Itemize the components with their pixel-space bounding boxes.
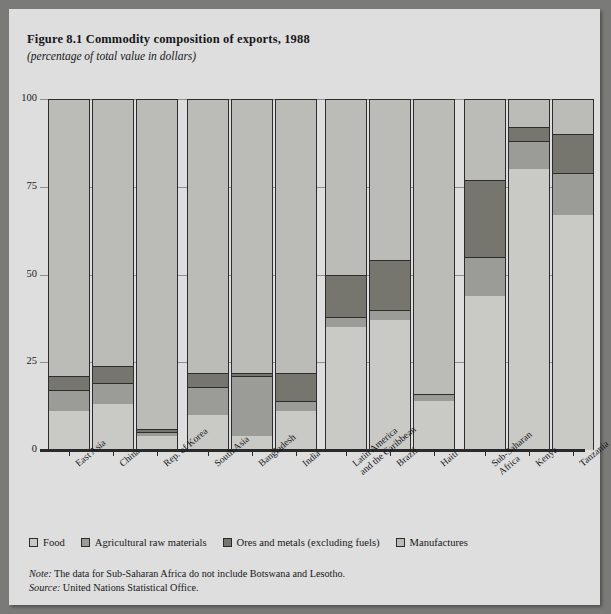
page-title: Figure 8.1 Commodity composition of expo… <box>27 32 310 47</box>
legend-swatch-icon <box>223 538 232 547</box>
y-tick-label-75: 75 <box>13 180 37 191</box>
legend-label: Manufactures <box>410 537 468 548</box>
segment-ores-and-metals-excluding-fuels- <box>509 127 549 141</box>
x-tick <box>208 452 209 456</box>
bar-latin-america-and-the-caribbean[interactable] <box>325 99 367 450</box>
segment-manufactures <box>509 99 549 127</box>
segment-agricultural-raw-materials <box>137 432 177 436</box>
segment-food <box>137 436 177 450</box>
bar-south-asia[interactable] <box>187 99 229 450</box>
segment-manufactures <box>93 99 133 366</box>
legend-label: Agricultural raw materials <box>95 537 207 548</box>
segment-food <box>414 401 454 450</box>
segment-ores-and-metals-excluding-fuels- <box>93 366 133 384</box>
segment-food <box>49 411 89 450</box>
segment-food <box>509 169 549 450</box>
y-tick-label-25: 25 <box>13 355 37 366</box>
segment-manufactures <box>232 99 272 373</box>
x-tick <box>529 452 530 456</box>
note-label: Note: <box>29 568 52 579</box>
segment-agricultural-raw-materials <box>553 173 593 215</box>
x-tick <box>346 452 347 456</box>
segment-ores-and-metals-excluding-fuels- <box>553 134 593 173</box>
x-tick <box>390 452 391 456</box>
legend-label: Food <box>43 537 65 548</box>
legend-swatch-icon <box>396 538 405 547</box>
x-tick <box>296 452 297 456</box>
segment-ores-and-metals-excluding-fuels- <box>49 376 89 390</box>
source-text: United Nations Statistical Office. <box>60 582 198 593</box>
segment-manufactures <box>188 99 228 373</box>
legend-item-food[interactable]: Food <box>29 537 65 548</box>
segment-agricultural-raw-materials <box>93 383 133 404</box>
segment-agricultural-raw-materials <box>232 376 272 436</box>
y-tick-label-100: 100 <box>13 92 37 103</box>
source-label: Source: <box>29 582 60 593</box>
bar-rep-of-korea[interactable] <box>136 99 178 450</box>
segment-manufactures <box>414 99 454 394</box>
chart-plot-area <box>40 99 585 450</box>
segment-ores-and-metals-excluding-fuels- <box>188 373 228 387</box>
segment-food <box>326 327 366 450</box>
bar-haiti[interactable] <box>413 99 455 450</box>
segment-agricultural-raw-materials <box>276 401 316 412</box>
x-tick <box>252 452 253 456</box>
segment-agricultural-raw-materials <box>370 310 410 321</box>
legend-item-ores-and-metals-excluding-fuels-[interactable]: Ores and metals (excluding fuels) <box>223 537 380 548</box>
x-tick <box>113 452 114 456</box>
y-axis: 0255075100 <box>9 99 37 459</box>
y-tick-label-50: 50 <box>13 268 37 279</box>
bar-east-asia[interactable] <box>48 99 90 450</box>
x-tick <box>434 452 435 456</box>
note-row: Note: The data for Sub-Saharan Africa do… <box>29 567 345 581</box>
legend-swatch-icon <box>29 538 38 547</box>
bar-india[interactable] <box>275 99 317 450</box>
bar-bangladesh[interactable] <box>231 99 273 450</box>
segment-agricultural-raw-materials <box>326 317 366 328</box>
segment-ores-and-metals-excluding-fuels- <box>465 180 505 257</box>
segment-ores-and-metals-excluding-fuels- <box>232 373 272 377</box>
segment-manufactures <box>326 99 366 275</box>
bar-sub-saharan-africa[interactable] <box>464 99 506 450</box>
bar-tanzania[interactable] <box>552 99 594 450</box>
segment-manufactures <box>553 99 593 134</box>
segment-food <box>553 215 593 450</box>
bar-china[interactable] <box>92 99 134 450</box>
source-row: Source: United Nations Statistical Offic… <box>29 581 345 595</box>
segment-manufactures <box>370 99 410 260</box>
segment-manufactures <box>276 99 316 373</box>
segment-ores-and-metals-excluding-fuels- <box>137 429 177 433</box>
x-tick <box>485 452 486 456</box>
segment-ores-and-metals-excluding-fuels- <box>276 373 316 401</box>
x-tick <box>69 452 70 456</box>
figure-notes: Note: The data for Sub-Saharan Africa do… <box>29 567 345 595</box>
page-subtitle: (percentage of total value in dollars) <box>27 50 196 62</box>
segment-ores-and-metals-excluding-fuels- <box>326 275 366 317</box>
x-tick <box>573 452 574 456</box>
segment-agricultural-raw-materials <box>49 390 89 411</box>
segment-manufactures <box>465 99 505 180</box>
segment-manufactures <box>49 99 89 376</box>
legend-item-manufactures[interactable]: Manufactures <box>396 537 468 548</box>
segment-agricultural-raw-materials <box>188 387 228 415</box>
segment-manufactures <box>137 99 177 429</box>
bar-kenya[interactable] <box>508 99 550 450</box>
legend-label: Ores and metals (excluding fuels) <box>237 537 380 548</box>
segment-food <box>465 296 505 450</box>
note-text: The data for Sub-Saharan Africa do not i… <box>52 568 345 579</box>
x-axis-labels: East AsiaChinaRep. of KoreaSouth AsiaBan… <box>9 452 600 527</box>
x-tick <box>157 452 158 456</box>
legend-item-agricultural-raw-materials[interactable]: Agricultural raw materials <box>81 537 207 548</box>
segment-agricultural-raw-materials <box>509 141 549 169</box>
legend-swatch-icon <box>81 538 90 547</box>
figure-page: Figure 8.1 Commodity composition of expo… <box>9 9 600 605</box>
chart-legend: FoodAgricultural raw materialsOres and m… <box>29 537 477 548</box>
segment-agricultural-raw-materials <box>414 394 454 401</box>
bar-brazil[interactable] <box>369 99 411 450</box>
segment-ores-and-metals-excluding-fuels- <box>370 260 410 309</box>
segment-agricultural-raw-materials <box>465 257 505 296</box>
